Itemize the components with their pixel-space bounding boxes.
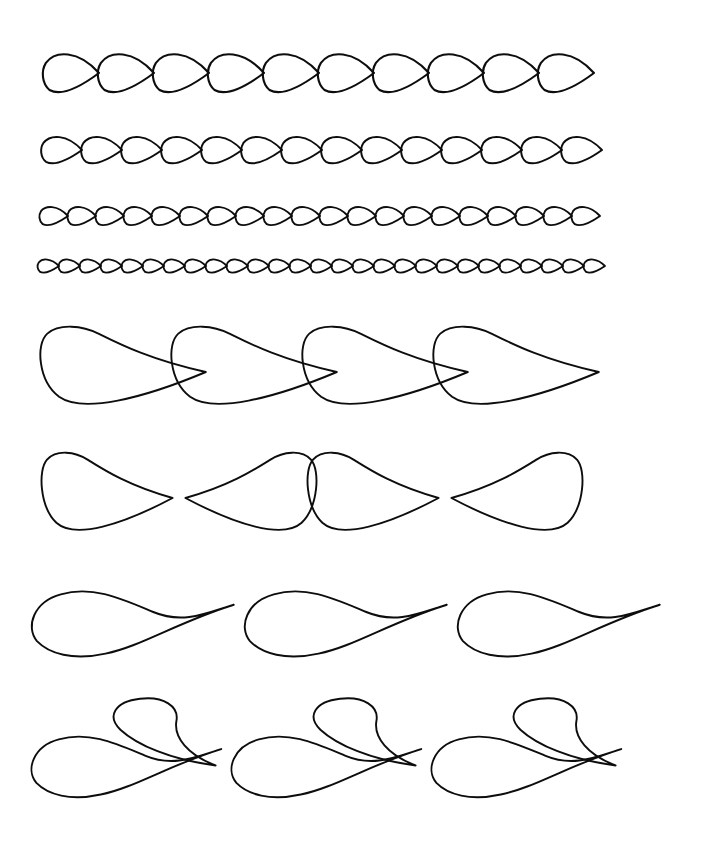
sheet-background bbox=[0, 0, 701, 844]
pattern-sheet bbox=[0, 0, 701, 844]
